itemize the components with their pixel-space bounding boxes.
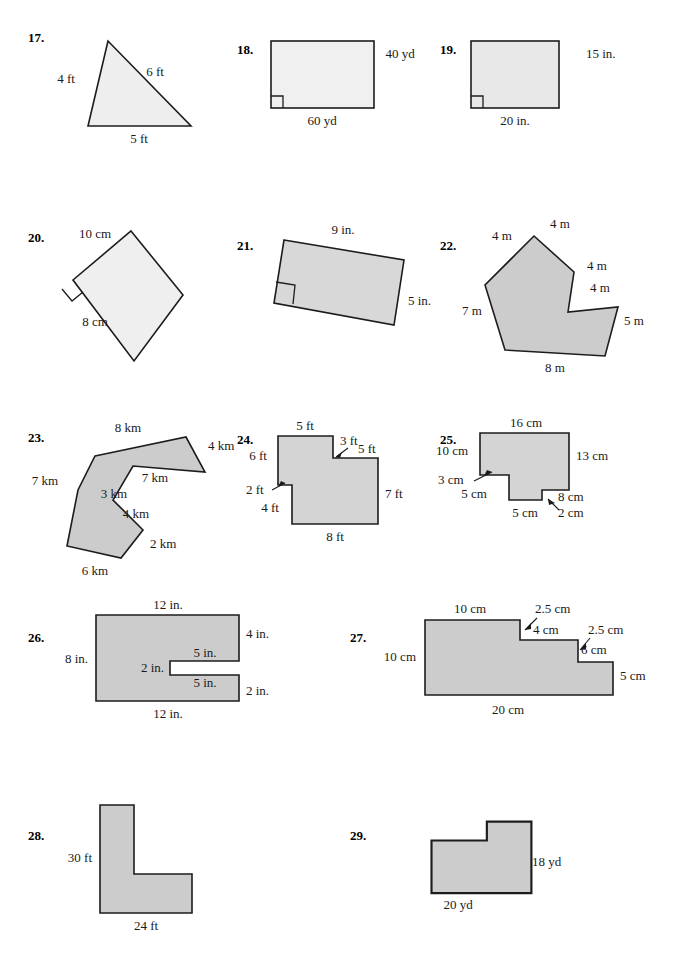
- problem-24: 24. 5 ft 3 ft 5 ft 6 ft 2 ft 4 ft 7 ft 8…: [230, 400, 430, 590]
- label-22-s5: 5 m: [624, 313, 644, 328]
- label-26-s5: 5 in.: [193, 675, 216, 690]
- rectilinear-notch-26: [96, 615, 239, 701]
- label-24-s7: 7 ft: [385, 486, 403, 501]
- figure-19: 15 in. 20 in.: [430, 0, 673, 170]
- label-27-s3: 4 cm: [533, 622, 559, 637]
- problem-19: 19. 15 in. 20 in.: [430, 0, 673, 170]
- problem-21: 21. 9 in. 5 in.: [230, 200, 430, 390]
- label-24-s1: 5 ft: [296, 418, 314, 433]
- rectangle-19: [471, 41, 559, 108]
- label-19-height: 15 in.: [586, 46, 616, 61]
- label-20-side-b: 8 cm: [82, 314, 108, 329]
- label-28-height: 30 ft: [68, 850, 93, 865]
- label-25-s8: 8 cm: [558, 489, 584, 504]
- label-26-s8: 8 in.: [65, 651, 88, 666]
- problem-18: 18. 40 yd 60 yd: [230, 0, 430, 170]
- figure-29: 18 yd 20 yd: [340, 790, 673, 960]
- label-24-s8: 8 ft: [326, 529, 344, 544]
- label-29-height: 18 yd: [532, 854, 562, 869]
- L-shape-mirrored-29: [432, 822, 532, 894]
- staircase-27: [425, 620, 613, 695]
- label-22-s1: 4 m: [492, 228, 512, 243]
- label-28-width: 24 ft: [134, 918, 159, 933]
- label-21-width: 9 in.: [331, 222, 354, 237]
- tilted-rectangle-21: [274, 240, 404, 325]
- label-27-s6: 5 cm: [620, 668, 646, 683]
- label-23-s7: 6 km: [82, 563, 108, 578]
- rectilinear-25: [480, 433, 569, 500]
- problem-26: 26. 12 in. 4 in. 5 in. 2 in. 5 in. 2 in.…: [0, 590, 340, 790]
- label-24-s4: 6 ft: [249, 448, 267, 463]
- label-20-side-a: 10 cm: [79, 226, 111, 241]
- label-24-s6: 4 ft: [261, 500, 279, 515]
- problem-25: 25. 16 cm 10 cm 13 cm 3 cm 5 cm 5 cm 2 c…: [430, 400, 673, 590]
- label-25-s7: 2 cm: [558, 505, 584, 520]
- label-23-s5: 4 km: [123, 506, 149, 521]
- figure-27: 10 cm 2.5 cm 4 cm 2.5 cm 6 cm 5 cm 20 cm…: [340, 590, 673, 790]
- figure-22: 4 m 4 m 4 m 4 m 5 m 8 m 7 m: [430, 200, 673, 390]
- problem-22: 22. 4 m 4 m 4 m 4 m 5 m 8 m 7 m: [430, 200, 673, 390]
- label-29-width: 20 yd: [443, 897, 473, 912]
- label-19-width: 20 in.: [500, 113, 530, 128]
- arrowhead-24-a: [336, 452, 342, 458]
- label-27-s2: 2.5 cm: [535, 601, 570, 616]
- label-25-s6: 5 cm: [512, 505, 538, 520]
- triangle-17: [88, 41, 191, 126]
- figure-25: 16 cm 10 cm 13 cm 3 cm 5 cm 5 cm 2 cm 8 …: [430, 400, 673, 590]
- label-23-s8: 7 km: [32, 473, 58, 488]
- label-26-s3: 5 in.: [193, 645, 216, 660]
- label-24-s2: 3 ft: [340, 433, 358, 448]
- label-26-s6: 2 in.: [246, 683, 269, 698]
- rotated-rectangle-20: [73, 231, 183, 361]
- problem-23: 23. 8 km 4 km 7 km 3 km 4 km 2 km 6 km 7…: [0, 400, 230, 590]
- problem-29: 29. 18 yd 20 yd: [340, 790, 673, 960]
- label-18-height: 40 yd: [385, 46, 415, 61]
- figure-26: 12 in. 4 in. 5 in. 2 in. 5 in. 2 in. 12 …: [0, 590, 340, 790]
- label-27-s1: 10 cm: [454, 601, 486, 616]
- figure-21: 9 in. 5 in.: [230, 200, 430, 390]
- label-25-s4: 3 cm: [438, 472, 464, 487]
- figure-20: 10 cm 8 cm: [0, 200, 230, 390]
- label-23-s6: 2 km: [150, 536, 176, 551]
- arrowhead-27-a: [525, 623, 531, 630]
- label-24-s5: 2 ft: [246, 482, 264, 497]
- concave-polygon-23: [67, 437, 205, 558]
- label-24-s3: 5 ft: [358, 441, 376, 456]
- label-22-s3: 4 m: [587, 258, 607, 273]
- label-27-s7: 20 cm: [492, 702, 524, 717]
- label-26-s4: 2 in.: [141, 660, 164, 675]
- label-26-s1: 12 in.: [153, 597, 183, 612]
- label-23-s1: 8 km: [115, 420, 141, 435]
- figure-23: 8 km 4 km 7 km 3 km 4 km 2 km 6 km 7 km: [0, 400, 230, 590]
- label-27-s8: 10 cm: [384, 649, 416, 664]
- label-22-s7: 7 m: [462, 303, 482, 318]
- concave-polygon-22: [485, 236, 618, 356]
- label-25-s3: 13 cm: [576, 448, 608, 463]
- rectangle-18: [271, 41, 374, 108]
- label-22-s2: 4 m: [550, 216, 570, 231]
- label-17-side-a: 4 ft: [57, 71, 75, 86]
- problem-20: 20. 10 cm 8 cm: [0, 200, 230, 390]
- figure-24: 5 ft 3 ft 5 ft 6 ft 2 ft 4 ft 7 ft 8 ft: [230, 400, 430, 590]
- worksheet-page: 17. 4 ft 6 ft 5 ft 18. 40 yd 60 yd 19. 1…: [0, 0, 673, 960]
- label-27-s5: 6 cm: [581, 642, 607, 657]
- label-25-s1: 16 cm: [510, 415, 542, 430]
- label-23-s3: 7 km: [142, 470, 168, 485]
- label-18-width: 60 yd: [307, 113, 337, 128]
- right-angle-mark-20: [62, 289, 83, 301]
- label-25-s5: 5 cm: [461, 486, 487, 501]
- label-26-s7: 12 in.: [153, 706, 183, 721]
- label-22-s4: 4 m: [590, 280, 610, 295]
- figure-17: 4 ft 6 ft 5 ft: [0, 0, 230, 170]
- problem-28: 28. 30 ft 24 ft: [0, 790, 300, 960]
- problem-17: 17. 4 ft 6 ft 5 ft: [0, 0, 230, 170]
- problem-27: 27. 10 cm 2.5 cm 4 cm 2.5 cm 6 cm 5 cm 2…: [340, 590, 673, 790]
- arrowhead-25-b: [548, 499, 555, 505]
- figure-28: 30 ft 24 ft: [0, 790, 300, 960]
- label-17-side-c: 5 ft: [130, 131, 148, 146]
- label-25-s2: 10 cm: [436, 443, 468, 458]
- label-23-s4: 3 km: [101, 486, 127, 501]
- label-17-side-b: 6 ft: [146, 64, 164, 79]
- figure-18: 40 yd 60 yd: [230, 0, 430, 170]
- label-21-height: 5 in.: [408, 293, 431, 308]
